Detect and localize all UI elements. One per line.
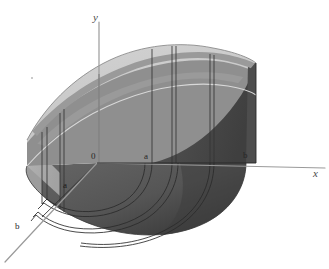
tick-label-x-b: b [243,151,248,160]
tick-label-z-a: a [63,181,67,190]
x-axis-label: x [313,168,318,179]
stray-speck [31,77,33,79]
base-radial-seg-b [38,203,44,209]
y-axis-label: y [93,12,98,23]
tick-label-origin: 0 [91,152,96,161]
figure-canvas: y x b 0 a b a [0,0,329,269]
solid-region-3d-diagram [0,0,329,269]
z-axis-label-b: b [15,222,20,231]
tick-label-x-a: a [144,152,148,161]
